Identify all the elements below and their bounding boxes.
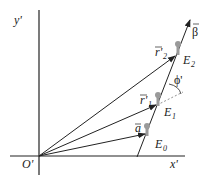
spacetime-diagram: y' x' O' β ϕ' a r' 1 r' 2 E 0 E 1 E 2 — [0, 0, 208, 180]
origin-label: O' — [22, 157, 34, 171]
event-e2-label: E — [182, 53, 191, 67]
vector-r2-sub: 2 — [163, 52, 167, 61]
vector-r1-sub: 1 — [148, 100, 152, 109]
vector-a-label: a — [135, 121, 141, 135]
event-e0-label: E — [154, 137, 163, 151]
y-axis-label: y' — [13, 13, 22, 27]
event-e1-label: E — [163, 105, 172, 119]
beta-label: β — [192, 25, 198, 39]
beta-trajectory-line — [137, 20, 190, 157]
event-marker-icon-e1 — [155, 92, 161, 106]
phi-angle-label: ϕ' — [174, 73, 182, 87]
event-e1-sub: 1 — [172, 112, 176, 121]
event-e2-sub: 2 — [191, 60, 195, 69]
event-e0-sub: 0 — [163, 144, 167, 153]
event-marker-icon-e2 — [175, 41, 181, 55]
x-axis-label: x' — [169, 157, 178, 171]
vector-a — [39, 134, 145, 156]
